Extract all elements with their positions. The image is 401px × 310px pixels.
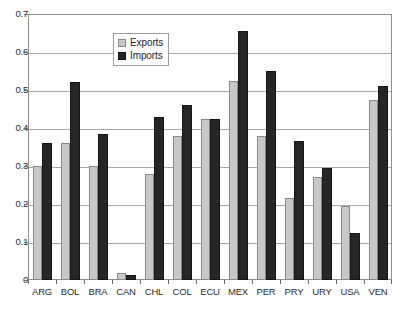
x-axis: ARGBOLBRACANCHLCOLECUMEXPERPRYURYUSAVEN (28, 280, 392, 310)
x-tick-label-chl: CHL (145, 286, 163, 297)
bar-exports-chl (145, 174, 155, 280)
x-tick-label-usa: USA (341, 286, 360, 297)
legend-swatch-exports-icon (118, 39, 126, 47)
bar-exports-bol (61, 143, 71, 280)
x-tick-mark (391, 280, 392, 284)
bar-exports-usa (341, 206, 351, 280)
bar-imports-usa (350, 233, 360, 281)
bar-exports-per (257, 136, 267, 280)
bar-imports-ven (378, 86, 388, 280)
legend-item-exports: Exports (118, 36, 163, 49)
x-tick-label-pry: PRY (285, 286, 304, 297)
x-tick-label-ven: VEN (369, 286, 388, 297)
legend-swatch-imports-icon (118, 52, 126, 60)
x-tick-label-can: CAN (116, 286, 135, 297)
x-tick-label-ecu: ECU (200, 286, 219, 297)
x-tick-label-bra: BRA (89, 286, 108, 297)
x-tick-mark (28, 280, 29, 284)
x-tick-mark (112, 280, 113, 284)
bar-exports-bra (89, 166, 99, 280)
bar-exports-col (173, 136, 183, 280)
legend: Exports Imports (113, 33, 169, 66)
x-tick-mark (168, 280, 169, 284)
bar-exports-mex (229, 81, 239, 281)
bar-exports-ecu (201, 119, 211, 281)
bar-imports-col (182, 105, 192, 280)
x-tick-mark (336, 280, 337, 284)
x-tick-mark (224, 280, 225, 284)
x-tick-mark (308, 280, 309, 284)
bar-exports-can (117, 273, 127, 280)
bar-imports-bra (98, 134, 108, 280)
x-tick-mark (280, 280, 281, 284)
x-tick-mark (252, 280, 253, 284)
bar-imports-ury (322, 168, 332, 280)
x-tick-mark (196, 280, 197, 284)
x-tick-mark (364, 280, 365, 284)
bar-chart: 00.10.20.30.40.50.60.7 ARGBOLBRACANCHLCO… (0, 0, 401, 310)
legend-item-imports: Imports (118, 49, 163, 62)
x-tick-label-col: COL (173, 286, 192, 297)
bar-imports-chl (154, 117, 164, 280)
x-tick-mark (84, 280, 85, 284)
bar-exports-ury (313, 177, 323, 280)
bar-imports-mex (238, 31, 248, 280)
x-tick-label-mex: MEX (228, 286, 248, 297)
bar-exports-ven (369, 100, 379, 281)
bar-imports-per (266, 71, 276, 280)
bar-exports-arg (33, 166, 43, 280)
bar-imports-bol (70, 82, 80, 280)
x-tick-mark (140, 280, 141, 284)
bar-imports-arg (42, 143, 52, 280)
x-tick-label-arg: ARG (32, 286, 52, 297)
x-tick-mark (56, 280, 57, 284)
x-tick-label-bol: BOL (61, 286, 79, 297)
legend-label-imports: Imports (130, 50, 163, 62)
bar-imports-ecu (210, 119, 220, 281)
legend-label-exports: Exports (130, 37, 163, 49)
bars-layer (28, 14, 392, 280)
x-tick-label-per: PER (257, 286, 276, 297)
bar-exports-pry (285, 198, 295, 280)
bar-imports-pry (294, 141, 304, 280)
x-tick-label-ury: URY (312, 286, 331, 297)
y-axis: 00.10.20.30.40.50.60.7 (0, 0, 28, 310)
